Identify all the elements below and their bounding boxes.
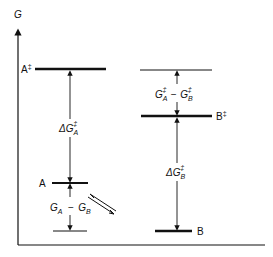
barrier-a-label: ΔGA‡ bbox=[58, 120, 79, 136]
equilibrium-arrows-icon bbox=[88, 194, 116, 214]
transition-state-b-label: B‡ bbox=[216, 110, 227, 122]
barrier-b-label: ΔGB‡ bbox=[165, 164, 186, 180]
difference-label-transition: GA‡−GB‡ bbox=[155, 86, 193, 102]
y-axis-label: G bbox=[14, 9, 22, 20]
ground-state-a-label: A bbox=[39, 178, 46, 189]
energy-diagram: G A‡ A ΔGA‡ GA−GB B‡ B GA‡−GB‡ ΔGB‡ bbox=[0, 0, 273, 257]
y-axis: G bbox=[14, 9, 22, 245]
difference-label-ground: GA−GB bbox=[50, 202, 91, 215]
ground-state-b-label: B bbox=[197, 226, 204, 237]
transition-state-a-label: A‡ bbox=[21, 63, 32, 75]
